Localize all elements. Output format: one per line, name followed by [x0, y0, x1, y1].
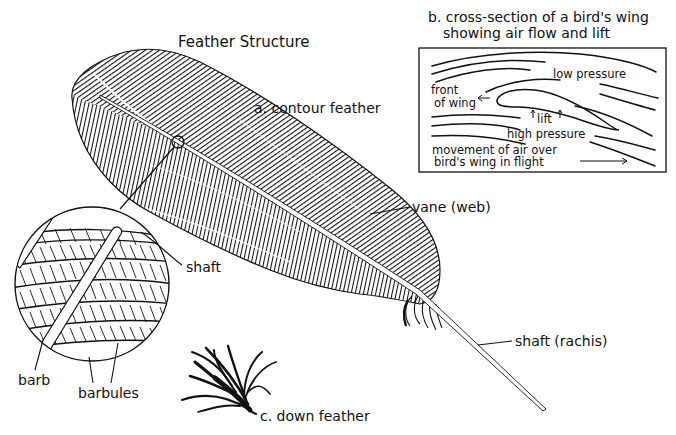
label-down-feather: c. down feather [260, 408, 370, 424]
label-low-pressure: low pressure [553, 67, 626, 81]
airflow-direction-arrow [580, 158, 627, 164]
lift-arrow-left [531, 110, 535, 118]
rachis-leader [478, 341, 512, 345]
barb-leader [35, 340, 43, 370]
wing-title-line1: b. cross-section of a bird's wing [428, 9, 649, 25]
label-shaft-rachis: shaft (rachis) [515, 333, 607, 349]
barbules-strokes [20, 228, 166, 350]
magnified-view [10, 207, 175, 361]
magnified-shaft-bar [40, 227, 122, 350]
label-front-line2: of wing [434, 96, 476, 110]
label-contour-feather: a. contour feather [254, 100, 381, 116]
label-shaft: shaft [186, 259, 221, 275]
label-vane: vane (web) [412, 199, 491, 215]
down-feather [182, 346, 276, 414]
airfoil [497, 89, 619, 130]
front-of-wing-arrow [478, 95, 490, 101]
label-barb: barb [18, 372, 50, 388]
wing-cross-section: b. cross-section of a bird's wing showin… [419, 9, 666, 172]
label-front-line1: front [431, 83, 459, 97]
label-movement-line2: bird's wing in flight [434, 155, 544, 169]
barbules-leader-2 [111, 343, 118, 383]
wing-title-line2: showing air flow and lift [443, 25, 610, 41]
label-high-pressure: high pressure [507, 127, 585, 141]
label-lift: lift [537, 112, 552, 126]
diagram-title: Feather Structure [178, 33, 310, 51]
label-barbules: barbules [78, 385, 139, 401]
feather-structure-diagram: Feather Structure a. co [0, 0, 676, 435]
